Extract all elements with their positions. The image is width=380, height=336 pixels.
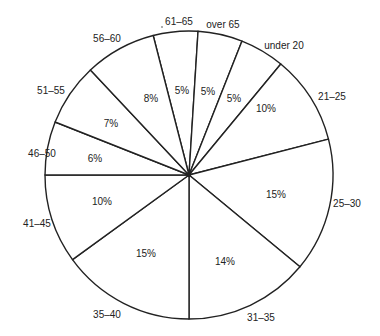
slice-category-label: 25–30 [333, 198, 361, 209]
slice-category-label: 41–45 [23, 218, 51, 229]
slice-percent-label: 10% [256, 103, 276, 114]
slice-category-label: over 65 [206, 19, 240, 30]
slice-category-label: 56–60 [93, 33, 121, 44]
slice-percent-label: 6% [88, 153, 103, 164]
slice-percent-label: 5% [201, 86, 216, 97]
slice-percent-label: 5% [175, 85, 190, 96]
slice-percent-label: 10% [92, 196, 112, 207]
slice-percent-label: 8% [144, 93, 159, 104]
slice-percent-label: 15% [266, 189, 286, 200]
pie-slices [45, 31, 333, 319]
slice-category-label: 51–55 [37, 85, 65, 96]
slice-percent-label: 7% [104, 118, 119, 129]
slice-category-label: 61–65 [165, 16, 193, 27]
slice-category-label: under 20 [264, 40, 304, 51]
stray-dot [161, 26, 163, 28]
slice-category-label: 46–50 [28, 148, 56, 159]
slice-percent-label: 15% [136, 248, 156, 259]
slice-category-label: 35–40 [93, 309, 121, 320]
slice-category-label: 21–25 [318, 91, 346, 102]
slice-category-label: 31–35 [247, 312, 275, 323]
pie-chart: 61–655%over 655%under 205%21–2510%25–301… [0, 0, 380, 336]
slice-percent-label: 5% [227, 93, 242, 104]
pie-center [187, 173, 191, 177]
slice-percent-label: 14% [215, 256, 235, 267]
